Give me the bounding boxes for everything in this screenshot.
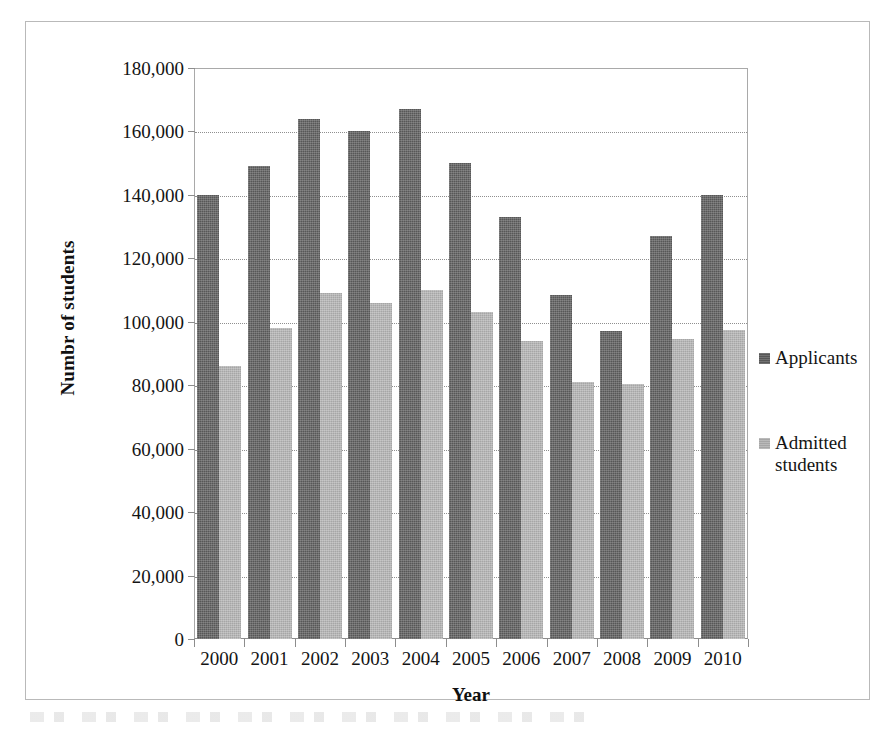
gridline — [195, 386, 747, 387]
y-axis-tick-label: 80,000 — [132, 376, 184, 395]
gridline — [195, 259, 747, 260]
x-axis-tick-label-2000: 2000 — [200, 648, 238, 671]
y-axis-tick-mark — [188, 131, 195, 132]
y-axis-tick-label: 0 — [175, 630, 185, 649]
legend-swatch-icon-admitted-students — [759, 438, 770, 449]
y-axis-tick-mark — [188, 258, 195, 259]
y-axis-tick-mark — [188, 68, 195, 69]
x-axis-title: Year — [194, 684, 748, 706]
x-axis-tick-label-2003: 2003 — [351, 648, 389, 671]
gridline — [195, 450, 747, 451]
x-axis-tick-mark — [496, 639, 497, 647]
x-axis-tick-mark — [547, 639, 548, 647]
y-axis-tick-label: 100,000 — [122, 312, 184, 331]
y-axis-tick-mark — [188, 512, 195, 513]
x-axis-tick-mark — [194, 639, 195, 647]
y-axis-tick-mark — [188, 576, 195, 577]
figure-frame: Numbr of students 020,00040,00060,00080,… — [25, 21, 870, 700]
legend-entry-admitted-students[interactable]: Admitted students — [759, 432, 892, 477]
gridline — [195, 577, 747, 578]
y-axis-tick-label: 180,000 — [122, 59, 184, 78]
plot-area — [194, 68, 748, 639]
legend-label-applicants: Applicants — [775, 347, 857, 369]
gridline — [195, 132, 747, 133]
y-axis-tick-label: 60,000 — [132, 439, 184, 458]
x-axis-tick-mark — [597, 639, 598, 647]
y-axis-tick-label: 40,000 — [132, 503, 184, 522]
x-axis-tick-label-2004: 2004 — [402, 648, 440, 671]
x-axis-tick-mark — [446, 639, 447, 647]
x-axis-tick-mark — [345, 639, 346, 647]
legend-label-admitted-students: Admitted students — [775, 432, 892, 477]
x-axis-tick-mark — [748, 639, 749, 647]
x-axis-tick-label-2007: 2007 — [553, 648, 591, 671]
gridline — [195, 323, 747, 324]
x-axis-tick-label-2005: 2005 — [452, 648, 490, 671]
x-axis-tick-label-2001: 2001 — [251, 648, 289, 671]
x-axis-tick-mark — [295, 639, 296, 647]
x-axis-tick-label-2008: 2008 — [603, 648, 641, 671]
scan-artifact — [30, 712, 590, 722]
x-axis-tick-labels: 2000200120022003200420052006200720082009… — [194, 648, 748, 674]
x-axis-tick-label-2010: 2010 — [704, 648, 742, 671]
y-axis-tick-mark — [188, 322, 195, 323]
y-axis-tick-labels: 020,00040,00060,00080,000100,000120,0001… — [26, 68, 184, 639]
gridline — [195, 513, 747, 514]
gridline — [195, 196, 747, 197]
x-axis-tick-mark — [698, 639, 699, 647]
y-axis-tick-mark — [188, 385, 195, 386]
y-axis-tick-mark — [188, 195, 195, 196]
y-axis-tick-label: 160,000 — [122, 122, 184, 141]
x-axis-tick-label-2009: 2009 — [653, 648, 691, 671]
y-axis-tick-mark — [188, 639, 195, 640]
x-axis-tick-marks — [194, 639, 748, 647]
legend-swatch-icon-applicants — [759, 353, 770, 364]
x-axis-tick-mark — [244, 639, 245, 647]
x-axis-tick-mark — [395, 639, 396, 647]
x-axis-tick-mark — [647, 639, 648, 647]
x-axis-tick-label-2002: 2002 — [301, 648, 339, 671]
y-axis-tick-label: 140,000 — [122, 185, 184, 204]
x-axis-tick-label-2006: 2006 — [502, 648, 540, 671]
y-axis-tick-mark — [188, 449, 195, 450]
y-axis-tick-label: 20,000 — [132, 566, 184, 585]
legend-entry-applicants[interactable]: Applicants — [759, 347, 857, 369]
y-axis-tick-label: 120,000 — [122, 249, 184, 268]
